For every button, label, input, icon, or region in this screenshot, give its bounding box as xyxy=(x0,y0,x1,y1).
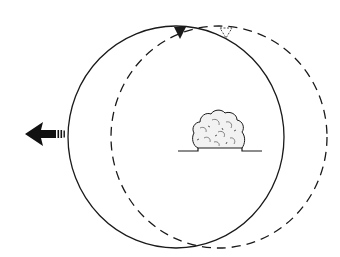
solid-orbit-marker-icon xyxy=(174,27,186,39)
cloud-icon xyxy=(193,110,245,148)
diagram-canvas xyxy=(0,0,340,257)
left-arrow-icon xyxy=(25,122,65,146)
solid-orbit xyxy=(68,26,284,248)
